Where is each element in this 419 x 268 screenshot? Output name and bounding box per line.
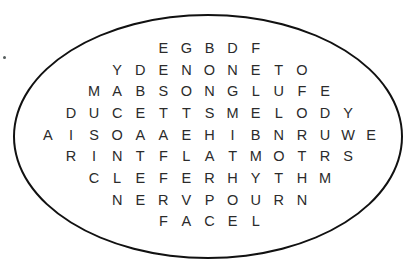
grid-cell[interactable]: L — [244, 211, 267, 233]
grid-cell[interactable]: M — [313, 168, 336, 190]
grid-cell[interactable]: O — [290, 103, 313, 125]
grid-cell[interactable]: N — [198, 81, 221, 103]
grid-cell[interactable]: N — [106, 146, 129, 168]
grid-row: RINTFLATMOTRS — [59, 146, 359, 168]
grid-cell[interactable]: N — [221, 60, 244, 82]
grid-cell[interactable]: M — [244, 146, 267, 168]
grid-cell[interactable]: N — [267, 125, 290, 147]
grid-cell[interactable]: Y — [106, 60, 129, 82]
grid-cell[interactable]: E — [244, 103, 267, 125]
grid-cell[interactable]: T — [175, 103, 198, 125]
grid-cell[interactable]: S — [152, 81, 175, 103]
grid-cell[interactable]: S — [198, 103, 221, 125]
grid-row: FACEL — [152, 211, 267, 233]
grid-cell[interactable]: E — [129, 168, 152, 190]
grid-cell[interactable]: R — [267, 190, 290, 212]
grid-cell[interactable]: O — [175, 81, 198, 103]
grid-cell[interactable]: P — [198, 190, 221, 212]
grid-cell[interactable]: U — [82, 103, 105, 125]
letter-grid: EGBDFYDENONETOMABSONGLUFEDUCETTSMELODYAI… — [0, 0, 419, 268]
grid-cell[interactable]: D — [313, 103, 336, 125]
grid-cell[interactable]: I — [59, 125, 82, 147]
grid-cell[interactable]: W — [337, 125, 360, 147]
grid-cell[interactable]: A — [198, 146, 221, 168]
grid-cell[interactable]: O — [198, 60, 221, 82]
grid-cell[interactable]: H — [221, 168, 244, 190]
grid-cell[interactable]: U — [313, 125, 336, 147]
grid-cell[interactable]: H — [290, 168, 313, 190]
grid-cell[interactable]: E — [221, 211, 244, 233]
grid-cell[interactable]: B — [129, 81, 152, 103]
grid-cell[interactable]: C — [198, 211, 221, 233]
grid-cell[interactable]: E — [175, 168, 198, 190]
grid-cell[interactable]: L — [267, 103, 290, 125]
grid-cell[interactable]: I — [82, 146, 105, 168]
grid-cell[interactable]: D — [129, 60, 152, 82]
grid-cell[interactable]: T — [221, 146, 244, 168]
grid-cell[interactable]: R — [152, 190, 175, 212]
grid-cell[interactable]: O — [267, 146, 290, 168]
grid-cell[interactable]: A — [106, 81, 129, 103]
grid-cell[interactable]: R — [59, 146, 82, 168]
grid-row: DUCETTSMELODY — [59, 103, 359, 125]
grid-cell[interactable]: A — [36, 125, 59, 147]
grid-cell[interactable]: O — [106, 125, 129, 147]
grid-cell[interactable]: L — [175, 146, 198, 168]
grid-cell[interactable]: T — [152, 103, 175, 125]
grid-row: CLEFERHYTHM — [82, 168, 336, 190]
grid-cell[interactable]: Y — [244, 168, 267, 190]
grid-cell[interactable]: E — [152, 38, 175, 60]
grid-cell[interactable]: U — [244, 190, 267, 212]
grid-cell[interactable]: E — [313, 81, 336, 103]
grid-cell[interactable]: N — [290, 190, 313, 212]
grid-cell[interactable]: L — [106, 168, 129, 190]
grid-cell[interactable]: C — [82, 168, 105, 190]
grid-cell[interactable]: F — [152, 168, 175, 190]
grid-cell[interactable]: M — [82, 81, 105, 103]
grid-cell[interactable]: C — [106, 103, 129, 125]
grid-cell[interactable]: A — [152, 125, 175, 147]
grid-cell[interactable]: Y — [337, 103, 360, 125]
grid-cell[interactable]: F — [290, 81, 313, 103]
grid-cell[interactable]: A — [129, 125, 152, 147]
grid-cell[interactable]: N — [175, 60, 198, 82]
grid-cell[interactable]: D — [221, 38, 244, 60]
grid-cell[interactable]: N — [106, 190, 129, 212]
grid-cell[interactable]: T — [129, 146, 152, 168]
grid-row: YDENONETO — [106, 60, 314, 82]
grid-cell[interactable]: A — [175, 211, 198, 233]
grid-cell[interactable]: I — [221, 125, 244, 147]
grid-cell[interactable]: R — [290, 125, 313, 147]
grid-cell[interactable]: E — [244, 60, 267, 82]
grid-row: MABSONGLUFE — [82, 81, 336, 103]
grid-cell[interactable]: O — [221, 190, 244, 212]
grid-cell[interactable]: R — [313, 146, 336, 168]
grid-cell[interactable]: B — [244, 125, 267, 147]
grid-cell[interactable]: T — [267, 168, 290, 190]
grid-cell[interactable]: B — [198, 38, 221, 60]
grid-cell[interactable]: R — [198, 168, 221, 190]
grid-cell[interactable]: O — [290, 60, 313, 82]
grid-cell[interactable]: S — [337, 146, 360, 168]
word-search-puzzle: EGBDFYDENONETOMABSONGLUFEDUCETTSMELODYAI… — [0, 0, 419, 268]
grid-cell[interactable]: G — [221, 81, 244, 103]
grid-cell[interactable]: E — [152, 60, 175, 82]
grid-row: EGBDF — [152, 38, 267, 60]
grid-cell[interactable]: F — [152, 146, 175, 168]
grid-cell[interactable]: T — [290, 146, 313, 168]
grid-cell[interactable]: M — [221, 103, 244, 125]
grid-cell[interactable]: S — [82, 125, 105, 147]
grid-cell[interactable]: E — [129, 103, 152, 125]
grid-cell[interactable]: H — [198, 125, 221, 147]
grid-cell[interactable]: E — [360, 125, 383, 147]
grid-cell[interactable]: D — [59, 103, 82, 125]
grid-cell[interactable]: F — [152, 211, 175, 233]
grid-cell[interactable]: G — [175, 38, 198, 60]
grid-cell[interactable]: E — [129, 190, 152, 212]
grid-cell[interactable]: V — [175, 190, 198, 212]
grid-cell[interactable]: L — [244, 81, 267, 103]
grid-cell[interactable]: T — [267, 60, 290, 82]
grid-cell[interactable]: E — [175, 125, 198, 147]
grid-cell[interactable]: F — [244, 38, 267, 60]
grid-cell[interactable]: U — [267, 81, 290, 103]
